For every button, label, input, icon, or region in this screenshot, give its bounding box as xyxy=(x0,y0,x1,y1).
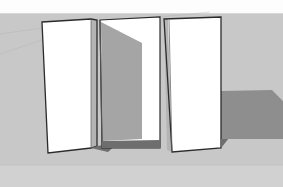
panel-left-side-face xyxy=(91,19,97,148)
panel-left[interactable] xyxy=(42,19,97,153)
panel-left-front-face xyxy=(42,19,91,153)
shadow-ground-middle-panel xyxy=(102,140,160,148)
ground-band-near xyxy=(0,165,283,187)
panel-middle[interactable] xyxy=(100,17,160,148)
sky-band xyxy=(0,0,283,14)
panel-right[interactable] xyxy=(164,17,221,152)
viewport-canvas[interactable]: 3D modeling viewport Perspective view of… xyxy=(0,0,283,187)
panel-right-front-face xyxy=(168,17,221,152)
